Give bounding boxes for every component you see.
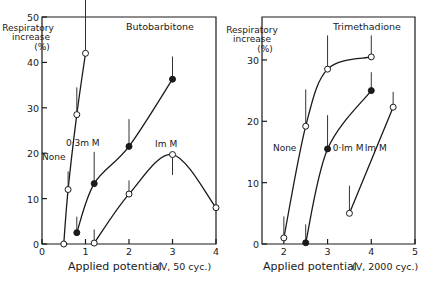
svg-text:(%): (%) [257, 44, 273, 54]
data-point [281, 235, 287, 241]
data-point [303, 123, 309, 129]
data-point [213, 205, 219, 211]
data-point [390, 104, 396, 110]
series-label: 0·Im M [333, 143, 364, 153]
x-axis-label-left: Applied potential [68, 260, 162, 273]
series-right: None0·Im MIm M [273, 35, 396, 245]
x-ticks-right: 2345 [281, 239, 418, 257]
data-point [368, 88, 374, 94]
data-point [368, 54, 374, 60]
svg-text:increase: increase [233, 34, 271, 44]
data-point [325, 66, 331, 72]
svg-text:increase: increase [12, 32, 50, 42]
x-axis-units-left: (V, 50 cyc.) [157, 261, 211, 272]
y-tick-label: 10 [27, 194, 39, 205]
y-tick-label: 0 [253, 239, 259, 250]
x-axis-label-right: Applied potential [263, 260, 357, 273]
x-tick-label: 1 [82, 246, 88, 257]
data-point [91, 181, 97, 187]
data-point [74, 112, 80, 118]
y-axis-label-right: Respiratory increase (%) [226, 25, 278, 54]
x-tick-label: 2 [281, 246, 287, 257]
series-line [349, 107, 393, 213]
data-point [61, 241, 67, 247]
panel-trimethadione: Trimethadione Respiratory increase (%) 0… [226, 17, 418, 273]
y-tick-label: 30 [27, 103, 39, 114]
panel-title-left: Butobarbitone [126, 21, 194, 32]
series-line [77, 79, 173, 232]
y-tick-label: 20 [247, 116, 259, 127]
x-tick-label: 0 [39, 246, 45, 257]
data-point [91, 240, 97, 246]
data-point [74, 230, 80, 236]
series-label: Im M [155, 139, 177, 149]
data-point [170, 152, 176, 158]
x-tick-label: 4 [368, 246, 374, 257]
x-tick-label: 5 [412, 246, 418, 257]
y-tick-label: 20 [27, 148, 39, 159]
data-point [170, 76, 176, 82]
data-point [325, 146, 331, 152]
data-point [65, 187, 71, 193]
x-axis-units-right: (V, 2000 cyc.) [352, 261, 418, 272]
y-ticks-right: 0102030 [247, 55, 267, 250]
series-none [61, 0, 89, 247]
series-label: None [42, 152, 66, 162]
y-tick-label: 50 [27, 12, 39, 23]
data-point [126, 191, 132, 197]
series-left: None0·3m MIm M [42, 0, 219, 247]
series-label: Im M [365, 143, 387, 153]
series-line [306, 91, 372, 243]
data-point [126, 143, 132, 149]
series-label: 0·3m M [66, 138, 100, 148]
series-line [94, 154, 216, 243]
chart-figure: Butobarbitone Respiratory increase (%) 0… [0, 0, 427, 281]
y-axis-label-left: Respiratory increase (%) [2, 23, 54, 52]
x-tick-label: 2 [126, 246, 132, 257]
data-point [303, 240, 309, 246]
series-label: None [273, 143, 297, 153]
y-tick-label: 10 [247, 178, 259, 189]
data-point [83, 50, 89, 56]
panel-title-right: Trimethadione [332, 21, 401, 32]
y-tick-label: 40 [27, 57, 39, 68]
panel-butobarbitone: Butobarbitone Respiratory increase (%) 0… [2, 0, 219, 273]
svg-text:(%): (%) [34, 42, 50, 52]
x-tick-label: 3 [325, 246, 331, 257]
y-tick-label: 30 [247, 55, 259, 66]
data-point [346, 210, 352, 216]
x-tick-label: 3 [169, 246, 175, 257]
x-tick-label: 4 [213, 246, 219, 257]
